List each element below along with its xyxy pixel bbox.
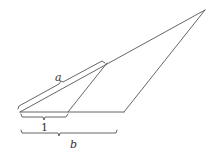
label-a: a: [55, 71, 62, 84]
outer-right-side: [124, 10, 205, 112]
inner-right-side: [68, 63, 107, 112]
brace-a: [18, 61, 105, 109]
brace-b: [21, 130, 117, 136]
geometry-diagram: a 1 b: [0, 0, 214, 156]
label-b: b: [70, 138, 77, 151]
brace-one: [21, 114, 68, 120]
label-one: 1: [41, 121, 48, 134]
long-side-line: [20, 10, 205, 112]
